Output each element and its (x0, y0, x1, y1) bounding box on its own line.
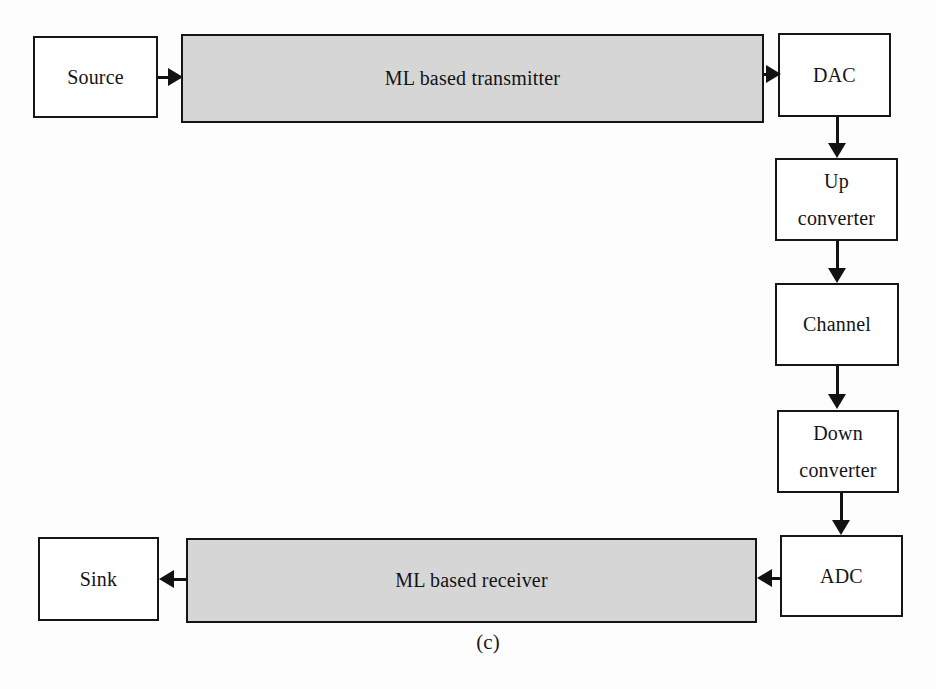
connector-line (836, 366, 839, 397)
block-source: Source (33, 36, 158, 118)
block-ml-based-transmitter-label: ML based transmitter (385, 64, 560, 93)
arrow-dac-to-up-converter (828, 117, 848, 159)
arrowhead-down-icon (828, 268, 846, 283)
arrowhead-down-icon (828, 143, 846, 158)
block-adc-label: ADC (820, 562, 863, 591)
block-up-converter: Up converter (775, 158, 898, 241)
block-down-converter-label: Down converter (799, 415, 876, 489)
arrow-channel-to-down-converter (828, 366, 848, 411)
connector-line (840, 493, 843, 523)
arrowhead-left-icon (159, 570, 174, 588)
arrow-transmitter-to-dac (764, 65, 780, 85)
arrowhead-right-icon (168, 68, 183, 86)
block-dac-label: DAC (813, 61, 856, 90)
block-source-label: Source (67, 63, 124, 92)
arrowhead-down-icon (832, 520, 850, 535)
block-ml-based-transmitter: ML based transmitter (181, 34, 764, 123)
arrow-receiver-to-sink (159, 570, 187, 590)
arrowhead-down-icon (828, 394, 846, 409)
block-down-converter-line2: converter (799, 459, 876, 481)
block-ml-based-receiver-label: ML based receiver (395, 566, 548, 595)
block-sink-label: Sink (80, 565, 117, 594)
block-channel: Channel (775, 283, 899, 366)
arrowhead-left-icon (757, 569, 772, 587)
arrow-down-converter-to-adc (832, 493, 852, 537)
block-channel-label: Channel (803, 310, 871, 339)
figure-caption: (c) (430, 630, 546, 655)
block-up-converter-line2: converter (798, 207, 875, 229)
block-ml-based-receiver: ML based receiver (186, 538, 757, 623)
block-down-converter-line1: Down (813, 422, 863, 444)
block-dac: DAC (778, 33, 891, 117)
arrowhead-right-icon (766, 65, 781, 83)
block-up-converter-label: Up converter (798, 163, 875, 237)
block-adc: ADC (780, 535, 903, 617)
connector-line (836, 241, 839, 271)
arrow-up-converter-to-channel (828, 241, 848, 284)
arrow-source-to-transmitter (158, 68, 183, 88)
block-up-converter-line1: Up (824, 170, 849, 192)
arrow-adc-to-receiver (757, 569, 781, 589)
block-sink: Sink (38, 537, 159, 621)
block-down-converter: Down converter (777, 410, 899, 493)
figure-canvas: Source ML based transmitter DAC Up conve… (0, 0, 936, 689)
